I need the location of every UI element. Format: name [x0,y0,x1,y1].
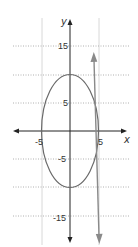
y-axis-label: y [60,16,68,27]
y-axis-down-arrow-icon [68,237,73,243]
y-axis-up-arrow-icon [68,19,73,25]
line-series [91,52,103,244]
x-tick-5: 5 [98,137,103,147]
x-axis-right-arrow-icon [121,129,127,134]
graph: y x 15 5 -5 -15 -5 5 [0,0,138,247]
y-tick-neg15: -15 [53,213,66,223]
line-down-arrow-icon [96,234,103,244]
x-axis-left-arrow-icon [13,129,19,134]
y-tick-neg5: -5 [58,154,66,164]
x-axis-label: x [123,134,130,145]
y-tick-5: 5 [63,98,68,108]
x-tick-neg5: -5 [35,137,43,147]
y-tick-15: 15 [58,41,68,51]
line-up-arrow-icon [91,52,98,62]
